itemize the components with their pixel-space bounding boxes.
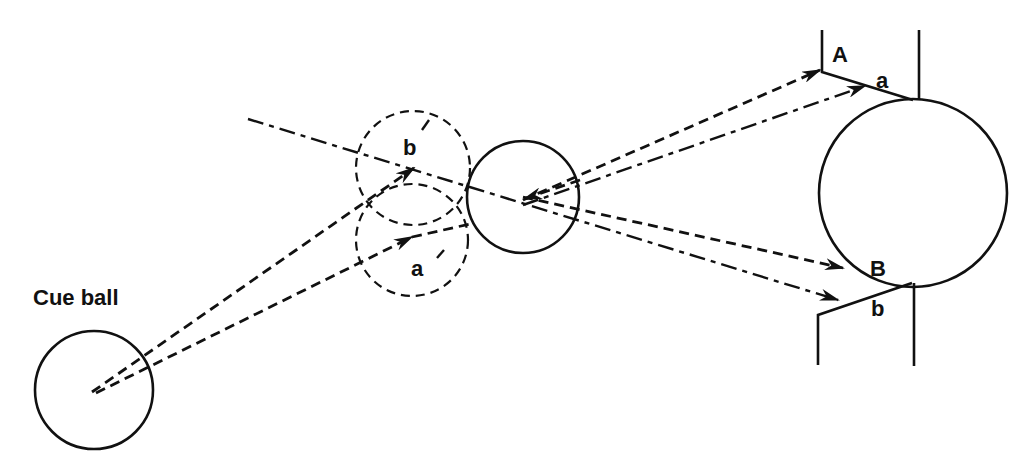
target-A-label: A	[832, 42, 848, 67]
ghost-b-tick	[422, 120, 429, 130]
cue-ball-label: Cue ball	[33, 285, 119, 310]
object-ball-entry	[524, 180, 580, 199]
cue-path-to-a	[96, 237, 412, 393]
ghost-a-tick	[437, 250, 444, 258]
billiards-diagram: Cue ball b a A a B b	[0, 0, 1036, 469]
target-a-label: a	[876, 68, 889, 93]
ghost-b-label: b	[403, 135, 416, 160]
target-B-label: B	[870, 256, 886, 281]
pocket-circle	[819, 99, 1007, 287]
pocket-jaw-bottom	[818, 283, 912, 365]
ghost-a-label: a	[411, 256, 424, 281]
object-path-to-B	[523, 197, 843, 268]
reference-line-to-b	[248, 119, 838, 300]
ghost-a-continuation	[412, 224, 470, 237]
reference-line-to-a	[523, 86, 865, 205]
target-b-label: b	[871, 296, 884, 321]
object-path-to-A	[523, 70, 820, 200]
